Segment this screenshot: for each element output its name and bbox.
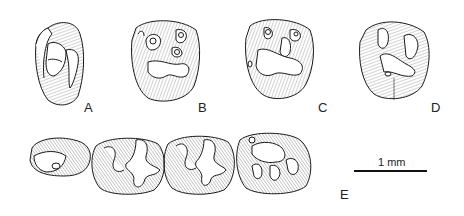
tooth-a-drawing	[36, 23, 84, 105]
scale-bar-label: 1 mm	[378, 157, 406, 168]
tooth-drawings	[0, 0, 464, 216]
tooth-d-drawing	[360, 22, 430, 100]
panel-label-c: C	[318, 101, 327, 114]
panel-label-a: A	[84, 101, 93, 114]
tooth-b-drawing	[132, 21, 200, 101]
tooth-figure: A B C D E 1 mm	[0, 0, 464, 216]
panel-label-d: D	[431, 101, 440, 114]
tooth-row-e-drawing	[30, 133, 311, 194]
tooth-c-drawing	[246, 20, 314, 99]
panel-label-b: B	[198, 101, 207, 114]
panel-label-e: E	[340, 188, 349, 201]
scale-bar	[354, 170, 427, 172]
